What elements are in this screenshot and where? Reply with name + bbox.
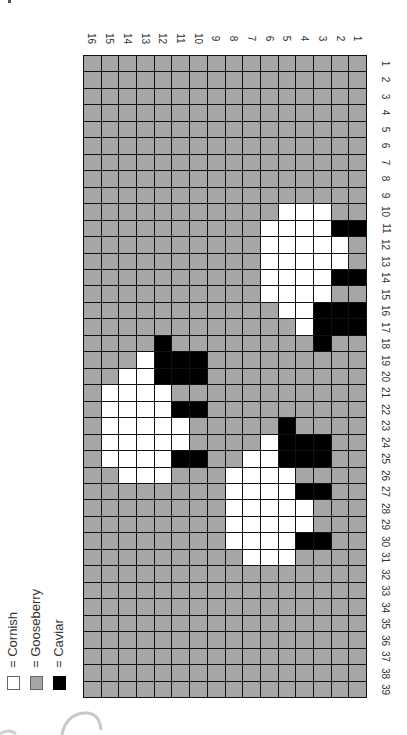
grid-cell xyxy=(332,599,349,614)
grid-cell xyxy=(314,155,331,170)
grid-cell xyxy=(314,352,331,367)
grid-cell xyxy=(349,155,366,170)
column-label: 14 xyxy=(118,28,136,48)
grid-cell xyxy=(190,303,207,318)
grid-cell xyxy=(314,468,331,483)
grid-cell xyxy=(296,286,313,301)
grid-cell xyxy=(349,237,366,252)
grid-cell xyxy=(208,188,225,203)
grid-cell xyxy=(349,270,366,285)
grid-cell xyxy=(261,286,278,301)
grid-cell xyxy=(226,550,243,565)
grid-cell xyxy=(296,204,313,219)
grid-cell xyxy=(261,583,278,598)
grid-cell xyxy=(137,484,154,499)
row-label: 28 xyxy=(375,500,397,516)
grid-cell xyxy=(84,616,101,631)
grid-cell xyxy=(226,319,243,334)
grid-cell xyxy=(208,221,225,236)
grid-cell xyxy=(190,155,207,170)
grid-cell xyxy=(155,303,172,318)
grid-cell xyxy=(102,319,119,334)
grid-cell xyxy=(119,385,136,400)
row-label: 18 xyxy=(375,335,397,351)
column-label: 4 xyxy=(296,28,314,48)
row-label: 12 xyxy=(375,236,397,252)
grid-cell xyxy=(84,550,101,565)
grid-cell xyxy=(172,550,189,565)
grid-cell xyxy=(226,599,243,614)
grid-cell xyxy=(243,435,260,450)
grid-cell xyxy=(172,56,189,71)
grid-cell xyxy=(243,254,260,269)
grid-cell xyxy=(349,435,366,450)
grid-cell xyxy=(243,72,260,87)
grid-cell xyxy=(261,56,278,71)
grid-cell xyxy=(137,583,154,598)
grid-cell xyxy=(243,221,260,236)
grid-cell xyxy=(226,270,243,285)
grid-cell xyxy=(137,237,154,252)
grid-cell xyxy=(349,566,366,581)
grid-cell xyxy=(137,72,154,87)
grid-cell xyxy=(349,204,366,219)
grid-cell xyxy=(208,336,225,351)
grid-cell xyxy=(172,435,189,450)
grid-cell xyxy=(172,418,189,433)
row-label: 5 xyxy=(375,121,397,137)
grid-cell xyxy=(349,402,366,417)
grid-cell xyxy=(243,286,260,301)
grid-cell xyxy=(296,105,313,120)
grid-cell xyxy=(261,89,278,104)
grid-cell xyxy=(332,155,349,170)
grid-cell xyxy=(261,632,278,647)
grid-cell xyxy=(84,286,101,301)
grid-cell xyxy=(190,105,207,120)
grid-cell xyxy=(349,188,366,203)
grid-cell xyxy=(261,616,278,631)
grid-cell xyxy=(349,56,366,71)
grid-cell xyxy=(119,270,136,285)
grid-cell xyxy=(226,105,243,120)
grid-cell xyxy=(84,171,101,186)
grid-cell xyxy=(190,566,207,581)
grid-cell xyxy=(155,122,172,137)
grid-cell xyxy=(208,237,225,252)
grid-cell xyxy=(208,369,225,384)
grid-cell xyxy=(155,566,172,581)
grid-cell xyxy=(155,616,172,631)
grid-cell xyxy=(349,89,366,104)
grid-cell xyxy=(208,451,225,466)
grid-cell xyxy=(314,566,331,581)
grid-cell xyxy=(279,599,296,614)
grid-cell xyxy=(226,237,243,252)
grid-cell xyxy=(190,319,207,334)
grid-cell xyxy=(226,352,243,367)
row-label: 14 xyxy=(375,269,397,285)
grid-cell xyxy=(102,402,119,417)
grid-cell xyxy=(208,319,225,334)
row-label: 23 xyxy=(375,418,397,434)
grid-cell xyxy=(155,352,172,367)
grid-cell xyxy=(84,451,101,466)
grid-cell xyxy=(243,319,260,334)
grid-cell xyxy=(314,435,331,450)
grid-cell xyxy=(172,254,189,269)
grid-cell xyxy=(349,583,366,598)
grid-cell xyxy=(279,319,296,334)
grid-cell xyxy=(172,583,189,598)
grid-cell xyxy=(296,369,313,384)
grid-cell xyxy=(84,468,101,483)
grid-cell xyxy=(243,56,260,71)
grid-cell xyxy=(314,171,331,186)
grid-cell xyxy=(296,221,313,236)
grid-cell xyxy=(119,550,136,565)
grid-cell xyxy=(84,500,101,515)
grid-cell xyxy=(279,89,296,104)
row-label: 34 xyxy=(375,599,397,615)
row-label: 15 xyxy=(375,286,397,302)
grid-cell xyxy=(102,500,119,515)
grid-cell xyxy=(84,270,101,285)
row-label: 2 xyxy=(375,71,397,87)
grid-cell xyxy=(137,451,154,466)
